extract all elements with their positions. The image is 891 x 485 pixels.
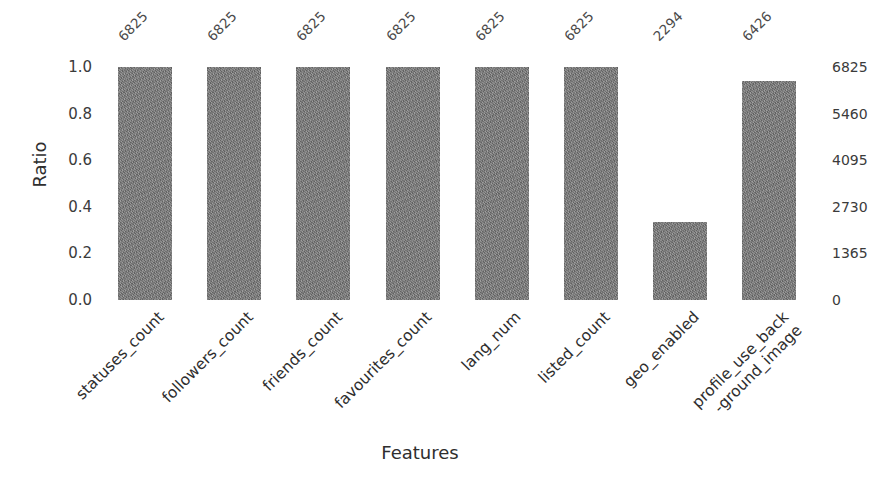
bar-value-label: 6825 bbox=[115, 8, 151, 44]
right-y-tick-label: 1365 bbox=[832, 245, 868, 261]
bar bbox=[742, 81, 796, 300]
right-y-tick-label: 6825 bbox=[832, 59, 868, 75]
right-y-tick-label: 4095 bbox=[832, 152, 868, 168]
bar-value-label: 6426 bbox=[739, 8, 775, 44]
bar bbox=[653, 222, 707, 300]
bar-value-label: 2294 bbox=[650, 8, 686, 44]
right-y-tick-label: 2730 bbox=[832, 199, 868, 215]
left-y-axis-label: Ratio bbox=[29, 120, 50, 210]
bar bbox=[564, 67, 618, 300]
left-y-tick-label: 0.6 bbox=[68, 151, 92, 169]
left-y-tick-label: 0.4 bbox=[68, 198, 92, 216]
right-y-axis-ticks: 682554604095273013650 bbox=[832, 67, 891, 300]
bar-value-label: 6825 bbox=[471, 8, 507, 44]
x-axis-label: Features bbox=[0, 442, 840, 463]
bar-value-label: 6825 bbox=[382, 8, 418, 44]
bar bbox=[207, 67, 261, 300]
left-y-tick-label: 0.2 bbox=[68, 244, 92, 262]
left-y-tick-label: 1.0 bbox=[68, 58, 92, 76]
bar-value-label: 6825 bbox=[293, 8, 329, 44]
left-y-tick-label: 0.8 bbox=[68, 105, 92, 123]
right-y-tick-label: 0 bbox=[832, 292, 841, 308]
bar bbox=[296, 67, 350, 300]
bar bbox=[118, 67, 172, 300]
plot-area bbox=[100, 67, 818, 300]
bar-value-label: 6825 bbox=[204, 8, 240, 44]
left-y-tick-label: 0.0 bbox=[68, 291, 92, 309]
bar bbox=[386, 67, 440, 300]
bar-chart-figure: 1.00.80.60.40.20.0 Ratio 682554604095273… bbox=[0, 0, 891, 485]
bar-value-label: 6825 bbox=[561, 8, 597, 44]
right-y-tick-label: 5460 bbox=[832, 106, 868, 122]
bar bbox=[475, 67, 529, 300]
